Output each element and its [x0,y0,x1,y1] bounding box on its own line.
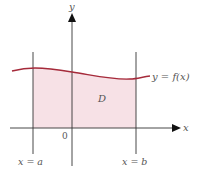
curve-label: y = f(x) [151,71,190,82]
x-axis-arrow-icon [172,124,181,132]
right-bound-label: x = b [122,156,147,167]
region-label: D [97,93,106,104]
origin-label: 0 [62,131,68,141]
region-diagram: y x 0 y = f(x) D x = a x = b [0,0,201,172]
y-axis-arrow-icon [68,13,76,22]
x-axis-label: x [183,122,189,133]
y-axis-label: y [68,1,75,12]
left-bound-label: x = a [18,156,43,167]
region-d-fill [33,68,136,128]
